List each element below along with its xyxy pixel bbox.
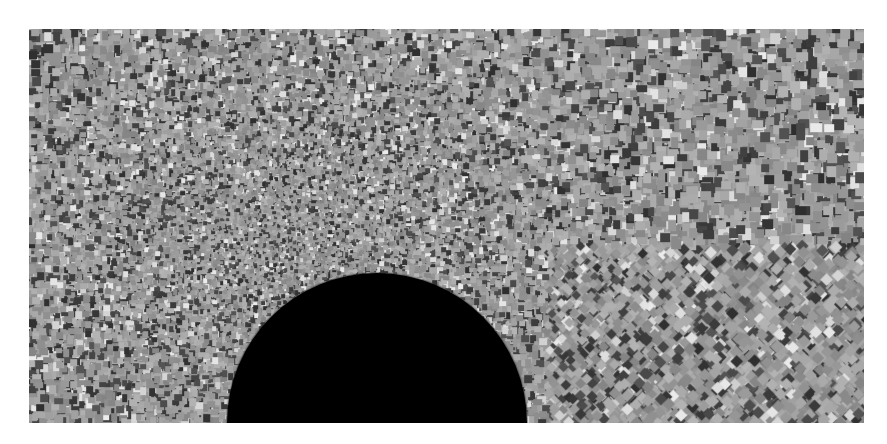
mesh-figure — [29, 29, 864, 423]
